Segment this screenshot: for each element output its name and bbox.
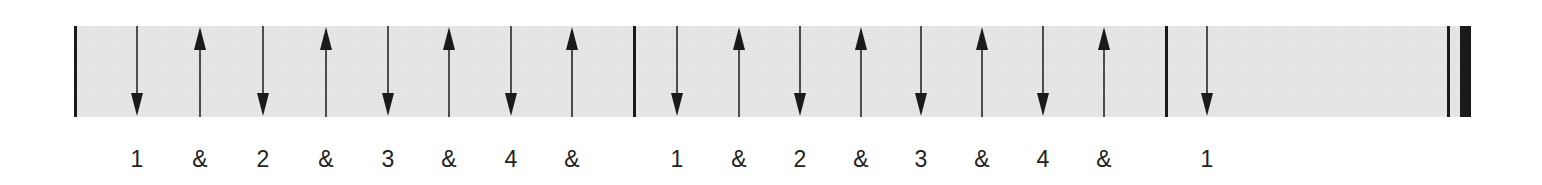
staff-band (74, 26, 1471, 117)
count-label: & (552, 145, 592, 173)
count-label: & (719, 145, 759, 173)
count-label: 3 (901, 145, 941, 173)
count-label: 4 (1023, 145, 1063, 173)
count-label: & (306, 145, 346, 173)
barline-single (74, 26, 77, 117)
count-label: 2 (780, 145, 820, 173)
count-label: & (180, 145, 220, 173)
count-label: & (429, 145, 469, 173)
down-arrow-icon (256, 26, 270, 117)
count-label: & (962, 145, 1002, 173)
down-arrow-icon (793, 26, 807, 117)
down-arrow-icon (504, 26, 518, 117)
count-label: & (841, 145, 881, 173)
barline-single (1165, 26, 1168, 117)
down-arrow-icon (914, 26, 928, 117)
down-arrow-icon (1200, 26, 1214, 117)
barline-single (633, 26, 636, 117)
barline-final-thin (1447, 26, 1450, 117)
up-arrow-icon (319, 26, 333, 117)
down-arrow-icon (1036, 26, 1050, 117)
down-arrow-icon (670, 26, 684, 117)
down-arrow-icon (130, 26, 144, 117)
up-arrow-icon (565, 26, 579, 117)
up-arrow-icon (854, 26, 868, 117)
count-label: 4 (491, 145, 531, 173)
count-label: 3 (368, 145, 408, 173)
up-arrow-icon (975, 26, 989, 117)
count-label: & (1084, 145, 1124, 173)
count-label: 1 (117, 145, 157, 173)
barline-final-thick (1460, 26, 1471, 117)
up-arrow-icon (1097, 26, 1111, 117)
count-label: 1 (1187, 145, 1227, 173)
up-arrow-icon (193, 26, 207, 117)
up-arrow-icon (732, 26, 746, 117)
up-arrow-icon (442, 26, 456, 117)
count-label: 2 (243, 145, 283, 173)
down-arrow-icon (381, 26, 395, 117)
count-label: 1 (657, 145, 697, 173)
